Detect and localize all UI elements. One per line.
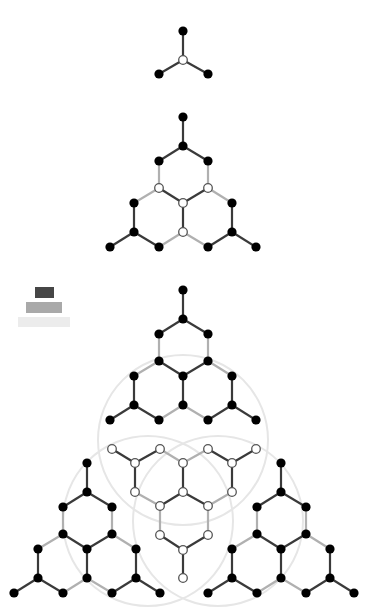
- structure-3-middle-inverted-white-node: [204, 445, 213, 454]
- structure-3-top-black-node: [178, 285, 187, 294]
- structure-2-triangle-white-node: [179, 228, 188, 237]
- structure-3-middle-inverted-white-node: [179, 546, 188, 555]
- structure-3-middle-inverted-white-node: [179, 574, 188, 583]
- structure-2-triangle-white-node: [179, 199, 188, 208]
- legend-bar-1: [26, 302, 62, 313]
- structure-2-triangle-white-node: [155, 184, 164, 193]
- structure-3-left-black-node: [58, 502, 67, 511]
- structure-2-triangle-black-node: [154, 242, 163, 251]
- structure-3-middle-inverted-white-node: [204, 531, 213, 540]
- structure-3-top-black-node: [251, 415, 260, 424]
- structure-3-right-black-node: [276, 458, 285, 467]
- structure-3-middle-inverted-white-node: [204, 502, 213, 511]
- structure-3-top-black-node: [129, 371, 138, 380]
- structure-3-left-black-node: [107, 529, 116, 538]
- structure-3-left-black-node: [82, 573, 91, 582]
- structure-3-top-black-node: [203, 415, 212, 424]
- structure-3-middle-inverted-white-node: [179, 488, 188, 497]
- structure-3-right-black-node: [301, 529, 310, 538]
- structure-3-right-black-node: [227, 573, 236, 582]
- structure-2-triangle-black-node: [203, 156, 212, 165]
- structure-2-triangle-black-node: [203, 242, 212, 251]
- structure-3-top-black-node: [227, 400, 236, 409]
- structure-2-triangle-black-node: [129, 198, 138, 207]
- structure-3-right-black-node: [301, 588, 310, 597]
- structure-3-right-black-node: [252, 502, 261, 511]
- structure-3-left-black-node: [58, 588, 67, 597]
- structure-3-top-black-node: [203, 356, 212, 365]
- structure-3-top-black-node: [154, 356, 163, 365]
- structure-2-triangle-black-node: [105, 242, 114, 251]
- structure-3-top-black-node: [129, 400, 138, 409]
- structure-3-left-black-node: [131, 573, 140, 582]
- structure-3-top-black-node: [105, 415, 114, 424]
- structure-3-middle-inverted-white-node: [156, 502, 165, 511]
- structure-2-triangle-black-node: [227, 227, 236, 236]
- structure-3-middle-inverted-white-node: [131, 459, 140, 468]
- structure-3-middle-inverted-white-node: [131, 488, 140, 497]
- structure-2-triangle-black-node: [129, 227, 138, 236]
- structure-3-top-black-node: [227, 371, 236, 380]
- structure-3-left-black-node: [9, 588, 18, 597]
- structure-3-top-black-node: [178, 371, 187, 380]
- structure-3-left-black-node: [155, 588, 164, 597]
- structure-3-middle-inverted-white-node: [156, 531, 165, 540]
- structure-3-middle-inverted-white-node: [156, 445, 165, 454]
- structure-3-top-black-node: [178, 400, 187, 409]
- structure-3-left-black-node: [107, 588, 116, 597]
- legend-bar-0: [35, 287, 54, 298]
- structure-3-right-black-node: [325, 573, 334, 582]
- structure-2-triangle-white-node: [204, 184, 213, 193]
- structure-3-left-black-node: [107, 502, 116, 511]
- structure-2-triangle-black-node: [154, 156, 163, 165]
- structure-3-middle-inverted-white-node: [252, 445, 261, 454]
- structure-3-right-black-node: [227, 544, 236, 553]
- structure-1-star-black-node: [178, 26, 187, 35]
- structure-3-right-black-node: [349, 588, 358, 597]
- structure-3-right-black-node: [252, 529, 261, 538]
- structure-3-left-black-node: [82, 544, 91, 553]
- structure-2-triangle-black-node: [178, 141, 187, 150]
- structure-3-middle-inverted-white-node: [228, 488, 237, 497]
- structure-3-right-black-node: [203, 588, 212, 597]
- structure-3-right-black-node: [325, 544, 334, 553]
- structure-3-right-black-node: [276, 487, 285, 496]
- structure-3-top-black-node: [203, 329, 212, 338]
- structure-3-right-black-node: [276, 544, 285, 553]
- structure-3-left-black-node: [131, 544, 140, 553]
- structure-3-left-black-node: [33, 544, 42, 553]
- legend-bar-2: [18, 317, 70, 327]
- structure-3-left-black-node: [58, 529, 67, 538]
- structure-3-right-black-node: [276, 573, 285, 582]
- structure-3-left-black-node: [82, 458, 91, 467]
- structure-3-top-black-node: [154, 329, 163, 338]
- structure-2-triangle-black-node: [178, 112, 187, 121]
- structure-1-star-white-node: [179, 56, 188, 65]
- structure-1-star-black-node: [203, 69, 212, 78]
- structure-2-triangle-black-node: [227, 198, 236, 207]
- structure-3-left-black-node: [82, 487, 91, 496]
- structure-3-top-black-node: [154, 415, 163, 424]
- structure-2-triangle-black-node: [251, 242, 260, 251]
- structure-3-middle-inverted-white-node: [179, 459, 188, 468]
- structure-3-right-black-node: [252, 588, 261, 597]
- structure-3-top-black-node: [178, 314, 187, 323]
- structure-1-star-black-node: [154, 69, 163, 78]
- structure-3-right-black-node: [301, 502, 310, 511]
- structure-3-left-black-node: [33, 573, 42, 582]
- structure-3-middle-inverted-white-node: [108, 445, 117, 454]
- structure-3-middle-inverted-white-node: [228, 459, 237, 468]
